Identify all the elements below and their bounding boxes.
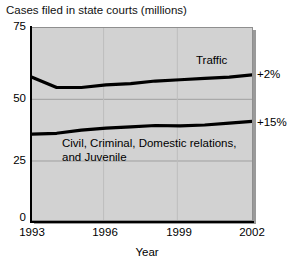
annotation-civil-change: +15% xyxy=(257,116,287,129)
series-label-civil-line1: Civil, Criminal, Domestic relations, xyxy=(62,136,236,150)
chart-title: Cases filed in state courts (millions) xyxy=(6,3,187,17)
x-axis-tick-label-1996: 1996 xyxy=(85,226,125,239)
x-axis-title: Year xyxy=(0,246,294,259)
x-axis-tick-label-1999: 1999 xyxy=(159,226,199,239)
y-axis-tick-label-0: 0 xyxy=(4,211,26,223)
series-label-traffic: Traffic xyxy=(196,54,227,67)
x-axis-tick-label-1993: 1993 xyxy=(12,226,52,239)
x-axis-line xyxy=(30,221,254,223)
y-axis-tick-label-25: 25 xyxy=(4,154,26,166)
series-line-traffic xyxy=(32,75,253,88)
annotation-traffic-change: +2% xyxy=(257,68,280,81)
x-axis-tick-label-2002: 2002 xyxy=(232,226,272,239)
y-axis-tick-label-50: 50 xyxy=(4,92,26,104)
series-label-civil: Civil, Criminal, Domestic relations, and… xyxy=(62,136,236,164)
series-label-civil-line2: and Juvenile xyxy=(62,150,236,164)
y-axis-line xyxy=(30,26,32,223)
y-axis-tick-label-75: 75 xyxy=(4,20,26,32)
series-line-civil xyxy=(32,121,253,134)
chart-container: Cases filed in state courts (millions) 7… xyxy=(0,0,294,265)
